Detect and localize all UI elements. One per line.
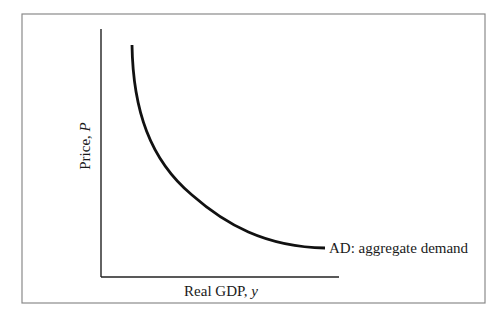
y-axis-label: Price, P (77, 122, 93, 170)
x-axis-label: Real GDP, y (184, 283, 258, 299)
ad-curve-label: AD: aggregate demand (329, 240, 469, 256)
chart: Price, P Real GDP, y AD: aggregate deman… (0, 0, 499, 318)
